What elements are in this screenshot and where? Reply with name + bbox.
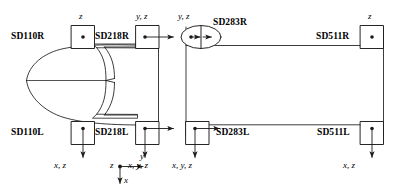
marker-sd110r xyxy=(72,26,95,49)
label-sd218l: SD218L xyxy=(95,128,128,138)
label-sd283l: SD283L xyxy=(216,128,249,138)
label-sd511l: SD511L xyxy=(317,128,350,138)
dof-sd283l: x, y, z xyxy=(172,161,192,170)
marker-sd511l xyxy=(361,122,384,158)
dof-sd110r: z xyxy=(79,12,83,21)
dof-sd283r: y, z xyxy=(178,12,190,21)
forebody-outline xyxy=(27,45,151,125)
label-sd283r: SD283R xyxy=(213,18,247,28)
axis-label-x: x xyxy=(124,176,128,185)
dof-sd110l: x, z xyxy=(54,161,66,170)
marker-sd283r xyxy=(181,26,221,49)
dof-sd218l: x, y, z xyxy=(128,161,148,170)
diagram-canvas: SD110R SD110L SD218R SD218L SD283R SD283… xyxy=(0,0,404,191)
marker-sd218r xyxy=(136,26,174,49)
dof-sd218r: y, z xyxy=(136,12,148,21)
label-sd218r: SD218R xyxy=(95,32,129,42)
marker-sd283l xyxy=(186,122,220,158)
axis-label-y: y xyxy=(140,152,144,161)
dof-sd511l: x, z xyxy=(343,161,355,170)
marker-sd511r xyxy=(361,26,384,49)
inner-chevron-structure xyxy=(93,44,138,118)
axis-label-z: z xyxy=(110,161,114,170)
label-sd110r: SD110R xyxy=(11,32,44,42)
dof-sd511r: z xyxy=(368,12,372,21)
label-sd511r: SD511R xyxy=(316,32,349,42)
marker-sd110l xyxy=(72,122,95,158)
label-sd110l: SD110L xyxy=(11,128,44,138)
